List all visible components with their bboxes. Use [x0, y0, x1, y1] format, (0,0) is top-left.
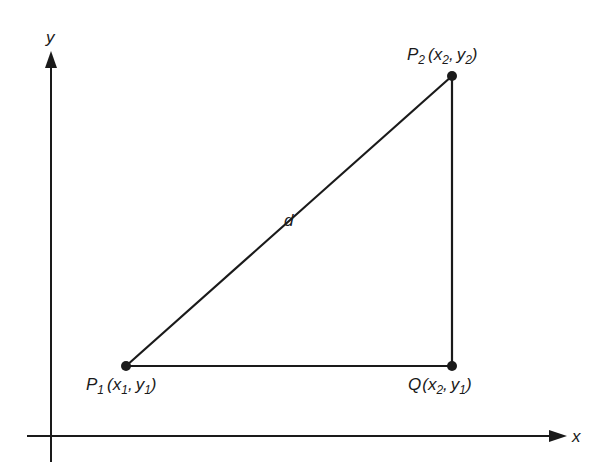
y-axis-arrow-icon: [45, 51, 57, 68]
point-p2-dot-icon: [447, 71, 457, 81]
right-triangle: d: [126, 76, 452, 366]
x-axis: x: [27, 427, 581, 446]
x-axis-label: x: [571, 427, 581, 446]
y-axis-label: y: [45, 28, 56, 47]
x-axis-arrow-icon: [549, 430, 567, 442]
y-axis: y: [45, 28, 57, 462]
point-p1-dot-icon: [121, 361, 131, 371]
distance-label: d: [284, 211, 294, 230]
point-p1-label: P1(x1,y1): [86, 375, 156, 397]
point-q-dot-icon: [447, 361, 457, 371]
distance-formula-diagram: y x d P2(x2,y2) P1(x1,y1) Q(x2,y1): [0, 0, 603, 476]
point-p2-label: P2(x2,y2): [407, 45, 477, 67]
point-q-label: Q(x2,y1): [408, 375, 472, 397]
